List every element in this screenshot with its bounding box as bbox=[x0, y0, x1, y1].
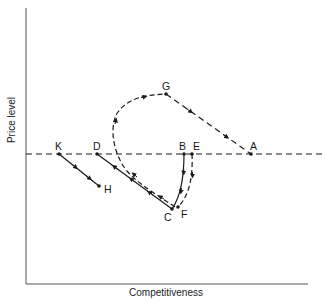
path-b-to-c bbox=[172, 154, 184, 209]
path-e-to-f bbox=[178, 154, 193, 207]
point-g bbox=[164, 92, 168, 96]
label-b: B bbox=[179, 140, 186, 152]
label-e: E bbox=[193, 140, 200, 152]
label-c: C bbox=[164, 211, 172, 223]
point-f bbox=[176, 205, 180, 209]
label-g: G bbox=[162, 80, 170, 92]
label-a: A bbox=[250, 140, 257, 152]
label-d: D bbox=[93, 140, 101, 152]
label-k: K bbox=[55, 140, 62, 152]
label-h: H bbox=[104, 183, 112, 195]
path-c-to-d bbox=[97, 154, 172, 209]
point-h bbox=[97, 184, 101, 188]
price-competitiveness-diagram: Competitiveness Price level bbox=[0, 0, 325, 302]
point-a bbox=[249, 152, 253, 156]
path-k-to-h bbox=[59, 154, 99, 186]
point-d bbox=[95, 152, 99, 156]
point-b bbox=[182, 152, 186, 156]
x-axis-label: Competitiveness bbox=[129, 287, 203, 298]
path-f-to-g bbox=[113, 94, 175, 207]
point-k bbox=[57, 152, 61, 156]
label-f: F bbox=[181, 208, 187, 220]
point-e bbox=[190, 152, 194, 156]
y-axis-label: Price level bbox=[6, 97, 17, 143]
